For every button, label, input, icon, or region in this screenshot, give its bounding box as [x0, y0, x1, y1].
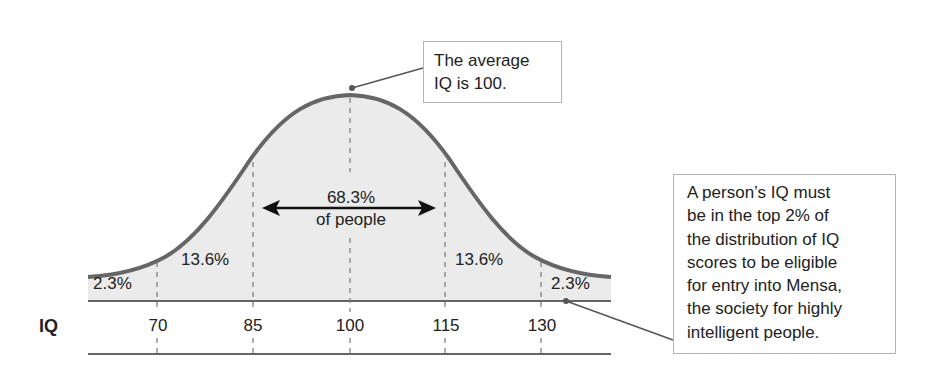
average-iq-callout: The average IQ is 100. [423, 41, 562, 103]
tick-70: 70 [149, 316, 168, 336]
tick-115: 115 [432, 316, 459, 336]
right-mid-percent: 13.6% [455, 250, 503, 270]
left-mid-percent: 13.6% [181, 250, 229, 270]
center-percent: 68.3% [327, 188, 375, 207]
axis-title-iq: IQ [39, 316, 58, 337]
tick-100: 100 [336, 316, 364, 336]
callout-right-line-1: A person’s IQ must [687, 181, 895, 204]
callout-top-line-1: The average [434, 49, 561, 72]
tick-130: 130 [528, 316, 556, 336]
callout-right-line-7: intelligent people. [687, 321, 895, 344]
callout-right-line-2: be in the top 2% of [687, 204, 895, 227]
callout-right-line-4: scores to be eligible [687, 251, 895, 274]
callout-right-line-3: the distribution of IQ [687, 228, 895, 251]
mensa-callout: A person’s IQ must be in the top 2% of t… [673, 174, 896, 354]
top-callout-leader [349, 68, 423, 91]
tick-85: 85 [244, 316, 263, 336]
right-tail-percent: 2.3% [551, 274, 590, 294]
left-tail-percent: 2.3% [93, 274, 132, 294]
right-callout-leader [563, 298, 673, 340]
iq-distribution-figure: 2.3% 13.6% 68.3% of people 13.6% 2.3% IQ… [0, 0, 940, 381]
callout-right-line-6: the society for highly [687, 297, 895, 320]
callout-right-line-5: for entry into Mensa, [687, 274, 895, 297]
center-caption: of people [316, 210, 386, 229]
callout-top-line-2: IQ is 100. [434, 72, 561, 95]
